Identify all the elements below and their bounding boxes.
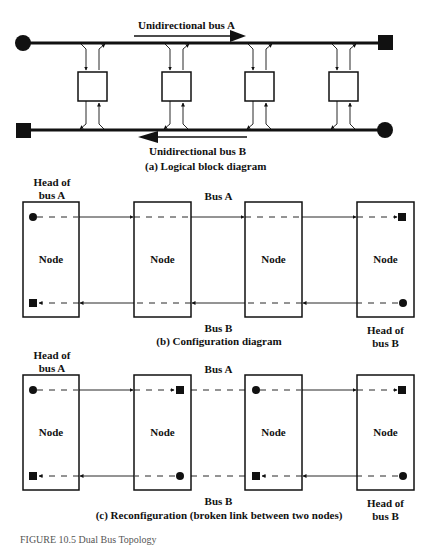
bus-a-label: Bus A (190, 363, 247, 376)
bus-b-head-circle-icon (399, 472, 407, 480)
head-of-bus-b-label: Head of bus B (357, 497, 414, 523)
node-label: Node (23, 253, 79, 266)
bus-b-direction-arrow-icon (138, 131, 247, 143)
figure-caption: FIGURE 10.5 Dual Bus Topology (20, 533, 157, 546)
bus-a-label: Unidirectional bus A (138, 19, 235, 32)
bus-a-end-square-icon (398, 386, 406, 394)
node-label: Node (357, 426, 414, 439)
node-label: Node (245, 426, 302, 439)
head-of-bus-a-label: Head of bus A (24, 349, 80, 375)
node-label: Node (134, 426, 191, 439)
node-label: Node (23, 426, 79, 439)
reconfiguration-diagram (23, 375, 414, 490)
bus-a-end-square-icon (378, 35, 393, 50)
bus-b-end-square-icon (16, 123, 31, 138)
head-a-line2: bus A (24, 189, 80, 202)
station-block-2 (162, 43, 191, 130)
bus-a-label: Bus A (190, 190, 247, 203)
node-label: Node (357, 253, 414, 266)
head-b-line1: Head of (357, 497, 414, 510)
bus-b-head-circle-icon (399, 299, 407, 307)
head-of-bus-b-label: Head of bus B (357, 324, 414, 350)
configuration-diagram (23, 202, 414, 317)
head-a-line1: Head of (24, 349, 80, 362)
bus-b-label: Unidirectional bus B (149, 145, 246, 158)
bus-b-label: Bus B (190, 322, 247, 335)
head-b-line1: Head of (357, 324, 414, 337)
bus-b-new-head-circle-icon (176, 472, 184, 480)
caption-a: (a) Logical block diagram (145, 160, 266, 173)
head-a-line1: Head of (24, 176, 80, 189)
bus-b-end-square-icon (252, 472, 260, 480)
node-label: Node (245, 253, 302, 266)
station-block-4 (329, 43, 358, 130)
bus-a-new-head-circle-icon (252, 386, 260, 394)
caption-b: (b) Configuration diagram (119, 335, 319, 348)
bus-b-label: Bus B (190, 495, 247, 508)
bus-a-head-circle-icon (29, 386, 37, 394)
bus-a-end-square-icon (398, 213, 406, 221)
bus-b-end-square-icon (29, 472, 37, 480)
head-b-line2: bus B (357, 337, 414, 350)
bus-a-end-square-icon (176, 386, 184, 394)
head-a-line2: bus A (24, 362, 80, 375)
station-block-3 (245, 43, 274, 130)
station-block-1 (78, 43, 107, 130)
head-of-bus-a-label: Head of bus A (24, 176, 80, 202)
bus-b-head-circle-icon (377, 122, 393, 138)
bus-a-head-circle-icon (29, 213, 37, 221)
head-b-line2: bus B (357, 510, 414, 523)
bus-b-end-square-icon (29, 299, 37, 307)
caption-c: (c) Reconfiguration (broken link between… (79, 509, 359, 522)
bus-a-head-circle-icon (15, 35, 31, 51)
node-label: Node (134, 253, 191, 266)
